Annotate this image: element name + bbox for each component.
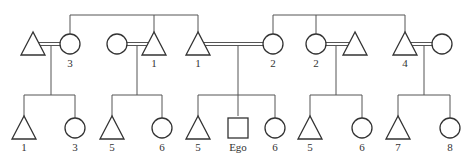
kin-label: 2 bbox=[313, 57, 319, 69]
female-circle-icon bbox=[440, 118, 460, 138]
connector-lines bbox=[24, 15, 450, 118]
kin-label: 7 bbox=[395, 141, 401, 153]
kin-label: 3 bbox=[72, 141, 78, 153]
kinship-diagram: 31122413565Ego65678 bbox=[0, 0, 471, 159]
male-triangle-icon bbox=[393, 32, 417, 55]
kin-label: 1 bbox=[195, 57, 201, 69]
kin-label: 8 bbox=[447, 141, 453, 153]
kin-label: Ego bbox=[229, 141, 247, 153]
kin-label: 6 bbox=[272, 141, 278, 153]
female-circle-icon bbox=[352, 118, 372, 138]
kin-label: 5 bbox=[307, 141, 313, 153]
male-triangle-icon bbox=[186, 116, 210, 139]
kin-label: 6 bbox=[159, 141, 165, 153]
kin-label: 6 bbox=[359, 141, 365, 153]
kin-label: 5 bbox=[195, 141, 201, 153]
kin-symbols bbox=[12, 32, 460, 139]
kin-label: 4 bbox=[402, 57, 408, 69]
male-triangle-icon bbox=[100, 116, 124, 139]
ego-square-icon bbox=[228, 118, 248, 138]
female-circle-icon bbox=[265, 118, 285, 138]
male-triangle-icon bbox=[298, 116, 322, 139]
female-circle-icon bbox=[306, 34, 326, 54]
male-triangle-icon bbox=[142, 32, 166, 55]
male-triangle-icon bbox=[21, 32, 45, 55]
female-circle-icon bbox=[152, 118, 172, 138]
male-triangle-icon bbox=[12, 116, 36, 139]
male-triangle-icon bbox=[386, 116, 410, 139]
female-circle-icon bbox=[60, 34, 80, 54]
kin-label: 1 bbox=[21, 141, 27, 153]
kin-label: 1 bbox=[151, 57, 157, 69]
kin-label: 3 bbox=[67, 57, 73, 69]
female-circle-icon bbox=[107, 34, 127, 54]
female-circle-icon bbox=[65, 118, 85, 138]
kin-label: 2 bbox=[270, 57, 276, 69]
female-circle-icon bbox=[263, 34, 283, 54]
male-triangle-icon bbox=[186, 32, 210, 55]
male-triangle-icon bbox=[343, 32, 367, 55]
kin-label: 5 bbox=[109, 141, 115, 153]
female-circle-icon bbox=[432, 34, 452, 54]
